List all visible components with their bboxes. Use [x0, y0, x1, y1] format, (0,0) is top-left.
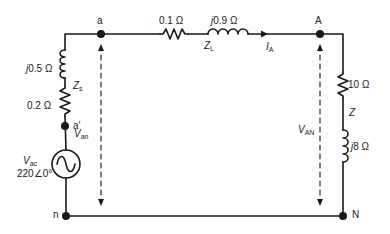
load-resistor: [338, 72, 348, 98]
load-resistance-label: 10 Ω: [348, 80, 369, 90]
node-A-label: A: [315, 16, 322, 26]
sine-icon: [57, 157, 75, 172]
node-a-prime-dot: [61, 122, 69, 130]
node-a-dot: [97, 30, 105, 38]
load-impedance-name: Z: [349, 108, 355, 118]
source-resistance-label: 0.2 Ω: [27, 101, 51, 111]
line-impedance-name: ZL: [204, 41, 214, 51]
source-resistor: [60, 86, 70, 116]
node-a-label: a: [97, 16, 103, 26]
v-an-arrowhead-top: [98, 44, 104, 51]
source-reactance-label: j0.5 Ω: [26, 64, 52, 74]
v-AN-arrowhead-top: [317, 44, 323, 51]
circuit-diagram: [0, 0, 390, 234]
v-an-label: Van: [74, 129, 88, 139]
node-N-dot: [339, 212, 347, 220]
node-N-label: N: [352, 210, 359, 220]
load-reactance-label: j8 Ω: [351, 142, 369, 152]
source-inductor: [60, 50, 65, 78]
wire-top-right: [248, 34, 343, 72]
v-an-arrowhead-bottom: [98, 199, 104, 206]
node-n-dot: [62, 212, 70, 220]
load-inductor: [343, 130, 348, 162]
line-inductor: [208, 29, 248, 34]
line-resistor: [160, 29, 188, 39]
wire-bottom: [66, 162, 343, 216]
node-A-dot: [316, 30, 324, 38]
wire-top-left: [65, 34, 160, 50]
line-reactance-label: j0.9 Ω: [211, 16, 237, 26]
node-n-label: n: [53, 210, 59, 220]
wire-left-lower: [65, 116, 66, 150]
line-resistance-label: 0.1 Ω: [159, 16, 183, 26]
source-value-label: 220∠0°: [17, 169, 52, 179]
source-impedance-name: Zs: [73, 81, 83, 91]
v-AN-label: VAN: [298, 125, 314, 135]
current-arrow-icon: [261, 31, 268, 38]
v-AN-arrowhead-bottom: [317, 199, 323, 206]
source-symbol-label: Vac: [23, 156, 37, 166]
current-label: IA: [266, 42, 273, 52]
